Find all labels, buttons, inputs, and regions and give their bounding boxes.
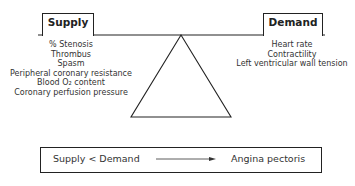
- supply-label-box: Supply: [42, 13, 94, 36]
- demand-label-box: Demand: [263, 13, 323, 36]
- supply-factor: Spasm: [6, 59, 136, 69]
- demand-label: Demand: [269, 16, 318, 28]
- supply-factor: Thrombus: [6, 50, 136, 60]
- demand-factor: Heart rate: [232, 40, 352, 50]
- demand-factor: Left ventricular wall tension: [232, 59, 352, 69]
- fulcrum-triangle: [131, 35, 231, 117]
- supply-label: Supply: [48, 16, 89, 28]
- supply-factors-list: % Stenosis Thrombus Spasm Peripheral cor…: [6, 40, 136, 98]
- result-outcome: Angina pectoris: [231, 153, 305, 164]
- result-box: Supply < Demand Angina pectoris: [40, 147, 322, 173]
- supply-factor: Blood O₂ content: [6, 78, 136, 88]
- demand-factor: Contractility: [232, 50, 352, 60]
- supply-factor: Peripheral coronary resistance: [6, 69, 136, 79]
- supply-factor: % Stenosis: [6, 40, 136, 50]
- demand-factors-list: Heart rate Contractility Left ventricula…: [232, 40, 352, 69]
- result-condition: Supply < Demand: [53, 153, 140, 164]
- supply-factor: Coronary perfusion pressure: [6, 88, 136, 98]
